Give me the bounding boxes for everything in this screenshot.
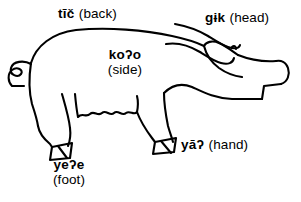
front-hoof-detail [161,141,171,153]
label-hand-gloss: (hand) [209,137,249,152]
belly-line [75,94,137,117]
label-hand-term: yāʔ [181,137,204,152]
front-leg-rear [137,112,155,142]
flank-line [137,96,138,112]
muzzle-upper [238,55,276,61]
label-head-term: gɨk [205,10,225,25]
label-back-gloss: (back) [79,6,117,21]
snout-front [276,61,289,84]
label-hand: yāʔ (hand) [181,135,248,153]
chest-line [164,85,262,99]
jaw-line [262,84,281,99]
hind-leg-front [62,94,70,146]
label-back: tīč (back) [58,4,117,22]
label-back-term: tīč [58,6,74,21]
label-side: koʔo (side) [85,48,165,77]
front-leg-front [164,93,173,142]
label-head: gɨk (head) [205,8,269,26]
pig-body-part-diagram: tīč (back) gɨk (head) koʔo (side) yāʔ (h… [0,0,301,202]
label-foot: yeʔe (foot) [33,158,105,187]
hind-leg-rear [38,126,52,147]
rump-line [30,63,38,126]
label-head-gloss: (head) [230,10,270,25]
cheek-line [204,46,242,77]
label-side-term: koʔo [85,48,165,63]
tail-path [9,62,31,86]
label-foot-term: yeʔe [33,158,105,173]
label-foot-gloss: (foot) [33,173,105,188]
label-side-gloss: (side) [85,63,165,78]
